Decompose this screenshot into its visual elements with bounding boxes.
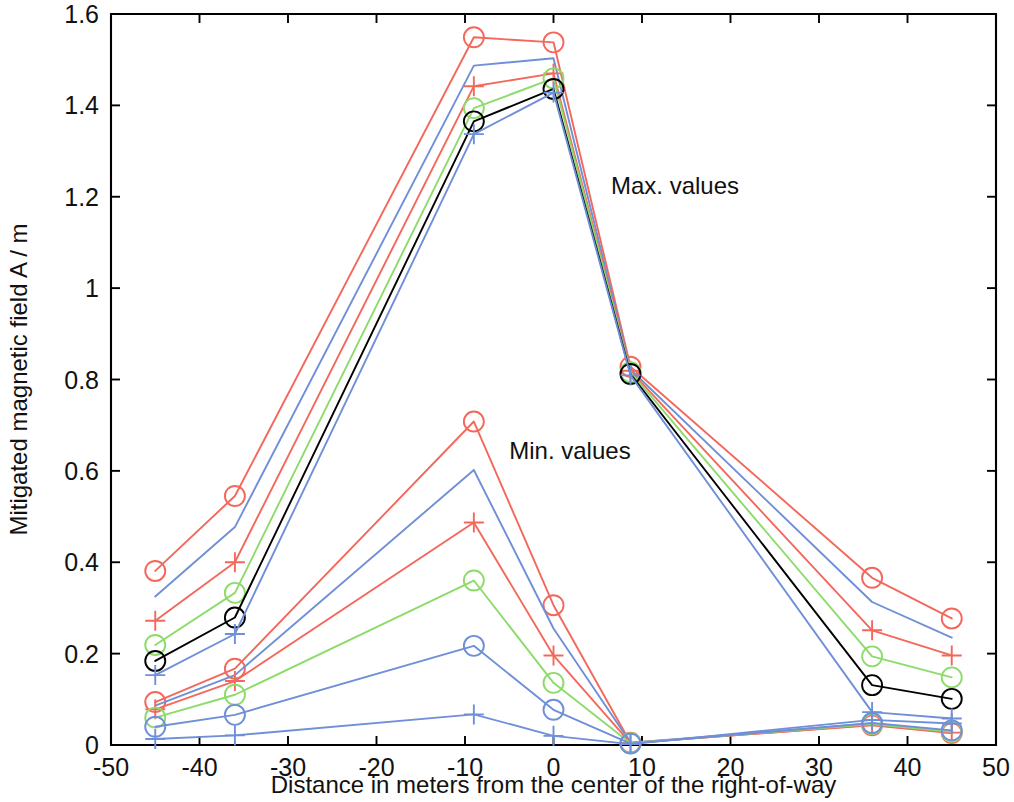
y-tick-label: 1 [85,274,99,302]
y-tick-label: 1.4 [64,91,99,119]
y-tick-label: 1.2 [64,183,99,211]
y-tick-label: 1.6 [64,0,99,28]
x-tick-label: 40 [894,753,922,781]
min-values-label: Min. values [509,437,630,464]
chart-figure: -50-40-30-20-100102030405000.20.40.60.81… [0,0,1014,802]
x-tick-label: -40 [181,753,217,781]
y-tick-label: 0.6 [64,457,99,485]
x-tick-label: 50 [982,753,1010,781]
y-tick-label: 0.8 [64,366,99,394]
max-values-label: Max. values [611,172,739,199]
x-axis-title: Distance in meters from the center of th… [271,771,837,798]
y-tick-label: 0.4 [64,548,99,576]
line-chart: -50-40-30-20-100102030405000.20.40.60.81… [0,0,1014,802]
y-tick-label: 0 [85,731,99,759]
y-axis-title: Mitigated magnetic field A / m [5,223,32,535]
y-tick-label: 0.2 [64,640,99,668]
